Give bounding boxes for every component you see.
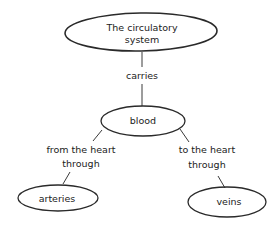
link-label-to-heart-1: to the heart	[179, 144, 236, 155]
node-veins-label: veins	[216, 196, 241, 207]
node-arteries: arteries	[18, 185, 98, 211]
node-arteries-label: arteries	[39, 193, 76, 204]
node-blood: blood	[101, 106, 185, 136]
link-label-from-heart-2: through	[62, 158, 99, 169]
link-label-to-heart-2: through	[188, 159, 225, 170]
link-label-carries: carries	[126, 70, 158, 81]
node-blood-label: blood	[130, 115, 156, 126]
connector-blood-right	[180, 129, 189, 142]
concept-map: The circulatory system carries blood fro…	[0, 0, 280, 227]
connector-blood-left	[93, 130, 102, 141]
connector-right-veins	[218, 176, 225, 188]
node-root-line-1: The circulatory	[105, 22, 177, 33]
node-circulatory-system: The circulatory system	[65, 12, 218, 53]
node-veins: veins	[188, 187, 266, 217]
connector-left-arteries	[63, 172, 70, 184]
node-root-line-2: system	[125, 34, 159, 45]
link-label-from-heart-1: from the heart	[46, 144, 115, 155]
